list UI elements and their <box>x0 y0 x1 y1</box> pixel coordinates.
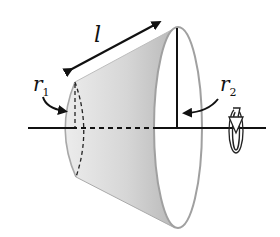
small-radius-label: r1 <box>33 72 50 99</box>
frustum-svg <box>0 0 280 237</box>
large-radius-label: r2 <box>220 72 237 99</box>
rotation-arrow-icon <box>229 108 243 153</box>
r1-pointer-arrow <box>43 97 64 111</box>
slant-height-label: l <box>94 22 101 47</box>
